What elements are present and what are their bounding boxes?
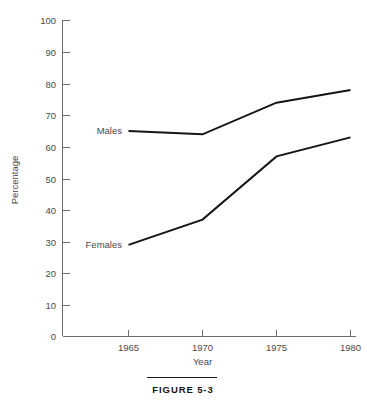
series-label-males: Males [97,125,123,136]
x-tick-label-1975: 1975 [266,342,287,353]
x-axis-title: Year [193,356,212,367]
y-tick-label-60: 60 [45,142,56,153]
y-tick-label-90: 90 [45,47,56,58]
x-axis-tick-labels: 1965 1970 1975 1980 [118,342,361,353]
y-tick-label-20: 20 [45,268,56,279]
figure-container: 100 90 80 70 60 50 40 30 20 10 0 Percent… [0,0,367,400]
y-tick-label-100: 100 [40,15,56,26]
y-axis-title: Percentage [9,156,20,205]
x-tick-label-1965: 1965 [118,342,139,353]
x-axis-ticks [129,330,351,337]
x-tick-label-1980: 1980 [340,342,361,353]
y-tick-label-30: 30 [45,237,56,248]
line-chart: 100 90 80 70 60 50 40 30 20 10 0 Percent… [0,0,367,400]
y-axis-ticks [63,21,70,306]
series-label-females: Females [86,239,123,250]
x-tick-label-1970: 1970 [192,342,213,353]
y-tick-label-50: 50 [45,174,56,185]
y-axis-tick-labels: 100 90 80 70 60 50 40 30 20 10 0 [40,15,56,342]
series-line-males [129,90,351,134]
y-tick-label-10: 10 [45,300,56,311]
series-line-females [129,137,351,245]
y-tick-label-40: 40 [45,205,56,216]
y-tick-label-70: 70 [45,110,56,121]
y-tick-label-80: 80 [45,79,56,90]
y-tick-label-0: 0 [51,331,56,342]
figure-caption: FIGURE 5-3 [152,384,213,395]
